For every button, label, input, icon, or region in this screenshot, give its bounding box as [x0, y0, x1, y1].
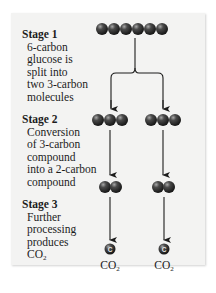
- carbon-atom-icon: C: [105, 244, 116, 255]
- two-carbon-molecule-icon: [152, 181, 175, 193]
- pathway-graphic: C C: [0, 0, 216, 293]
- three-carbon-molecule-icon: [92, 114, 128, 126]
- co2-product-label: CO2: [149, 259, 179, 271]
- three-carbon-molecule-icon: [145, 114, 181, 126]
- split-brace: [111, 38, 163, 108]
- carbon-atom-icon: C: [159, 244, 170, 255]
- svg-text:C: C: [162, 246, 167, 253]
- glucose-molecule-icon: [96, 23, 168, 35]
- svg-text:C: C: [108, 246, 113, 253]
- two-carbon-molecule-icon: [99, 181, 122, 193]
- co2-product-label: CO2: [95, 259, 125, 271]
